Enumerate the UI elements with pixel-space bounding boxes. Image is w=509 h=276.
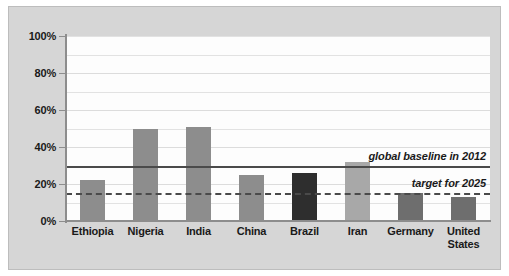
chart-panel: 100% 80% 60% 40% 20% 0% global baseline … bbox=[8, 6, 501, 270]
category-label-brazil: Brazil bbox=[278, 225, 331, 238]
bar-ethiopia[interactable] bbox=[80, 180, 104, 221]
category-label-china: China bbox=[225, 225, 278, 238]
ytick-label-40: 40% bbox=[35, 141, 56, 153]
x-axis bbox=[65, 220, 491, 222]
plot-area: 100% 80% 60% 40% 20% 0% global baseline … bbox=[66, 36, 490, 221]
global-baseline-line bbox=[66, 166, 490, 168]
ytick-label-80: 80% bbox=[35, 67, 56, 79]
bar-iran[interactable] bbox=[345, 162, 369, 221]
category-label-iran: Iran bbox=[331, 225, 384, 238]
category-label-germany: Germany bbox=[384, 225, 437, 238]
gridline-40 bbox=[66, 147, 490, 148]
category-label-nigeria: Nigeria bbox=[119, 225, 172, 238]
ytick-label-20: 20% bbox=[35, 178, 56, 190]
category-label-united-states: United States bbox=[437, 225, 490, 251]
bar-china[interactable] bbox=[239, 175, 263, 221]
target-2025-line bbox=[66, 193, 490, 195]
bar-germany[interactable] bbox=[398, 193, 422, 221]
gridline-60 bbox=[66, 110, 490, 111]
y-axis bbox=[65, 34, 67, 223]
gridline-70 bbox=[66, 92, 490, 93]
ytick-label-0: 0% bbox=[41, 215, 57, 227]
gridline-10 bbox=[66, 203, 490, 204]
bar-united-states[interactable] bbox=[451, 197, 475, 221]
target-2025-label: target for 2025 bbox=[412, 177, 486, 189]
gridline-50 bbox=[66, 129, 490, 130]
ytick-label-60: 60% bbox=[35, 104, 56, 116]
gridline-90 bbox=[66, 55, 490, 56]
gridline-100 bbox=[66, 36, 490, 37]
category-label-ethiopia: Ethiopia bbox=[66, 225, 119, 238]
global-baseline-label: global baseline in 2012 bbox=[368, 150, 486, 162]
bar-nigeria[interactable] bbox=[133, 129, 157, 222]
ytick-label-100: 100% bbox=[29, 30, 56, 42]
bar-india[interactable] bbox=[186, 127, 210, 221]
category-label-india: India bbox=[172, 225, 225, 238]
gridline-80 bbox=[66, 73, 490, 74]
bar-brazil[interactable] bbox=[292, 173, 316, 221]
